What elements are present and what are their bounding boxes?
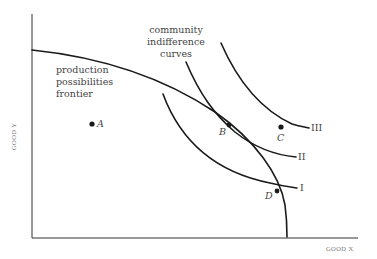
curve-label-iii: III	[311, 122, 323, 133]
point-b-label: B	[218, 126, 226, 137]
curve-label-ii: II	[298, 151, 306, 162]
ppf-label-line-1: production	[56, 64, 109, 75]
x-axis-label: GOOD X	[326, 245, 354, 252]
ppf-label-line-2: possibilities	[56, 76, 113, 87]
point-c-marker	[278, 124, 283, 129]
diagram-canvas: GOOD Y GOOD X I II III production possib…	[0, 0, 377, 259]
ppf-label-line-3: frontier	[56, 88, 93, 99]
point-c-label: C	[277, 132, 285, 143]
indifference-curves-label: community indifference curves	[147, 24, 205, 59]
diagram-svg: GOOD Y GOOD X I II III production possib…	[0, 0, 377, 259]
ppf-label: production possibilities frontier	[56, 64, 113, 99]
ic-label-line-1: community	[149, 24, 203, 35]
ic-label-line-2: indifference	[147, 36, 205, 47]
point-a-label: A	[96, 118, 104, 129]
ic-label-line-3: curves	[160, 48, 192, 59]
point-b-marker	[227, 123, 232, 128]
indifference-curve-iii	[221, 43, 309, 128]
point-d-label: D	[264, 190, 273, 201]
point-d-marker	[275, 189, 280, 194]
curve-label-i: I	[300, 182, 304, 193]
point-a-marker	[89, 121, 94, 126]
y-axis-label: GOOD Y	[10, 123, 17, 150]
